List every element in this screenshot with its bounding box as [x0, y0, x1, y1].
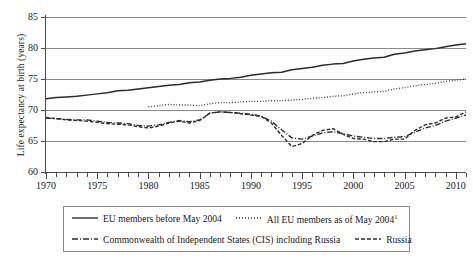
- legend-swatch-dashdot: [72, 234, 98, 244]
- x-tick-1988: [230, 173, 231, 177]
- x-tick-2003: [384, 173, 385, 177]
- x-tick-1986: [210, 173, 211, 177]
- x-tick-1980: [148, 173, 149, 179]
- x-tick-2004: [394, 173, 395, 177]
- x-tick-2009: [446, 173, 447, 177]
- x-tick-1978: [128, 173, 129, 177]
- x-tick-1975: [97, 173, 98, 179]
- legend-label-russia: Russia: [386, 234, 412, 245]
- y-tick-label-65: 65: [12, 136, 38, 146]
- x-tick-label-1980: 1980: [128, 180, 168, 191]
- x-tick-1995: [302, 173, 303, 179]
- x-tick-1989: [241, 173, 242, 177]
- x-tick-1983: [179, 173, 180, 177]
- x-tick-1974: [87, 173, 88, 177]
- x-tick-label-1975: 1975: [77, 180, 117, 191]
- x-tick-1970: [46, 173, 47, 179]
- x-tick-1999: [343, 173, 344, 177]
- legend-swatch-solid: [72, 213, 98, 223]
- x-tick-2008: [435, 173, 436, 177]
- legend-label-eu-before-2004: EU members before May 2004: [103, 213, 222, 224]
- x-tick-2010: [456, 173, 457, 179]
- legend-item-russia[interactable]: Russia: [347, 234, 412, 245]
- x-tick-1998: [333, 173, 334, 177]
- legend-swatch-dashed: [355, 234, 381, 244]
- x-tick-1993: [282, 173, 283, 177]
- x-tick-1987: [220, 173, 221, 177]
- x-tick-label-1970: 1970: [26, 180, 66, 191]
- x-tick-label-2000: 2000: [333, 180, 373, 191]
- x-tick-label-2005: 2005: [385, 180, 425, 191]
- legend-swatch-dotted: [236, 213, 262, 223]
- legend-label-all-eu-2004: All EU members as of May 20041: [267, 211, 398, 225]
- x-tick-1982: [169, 173, 170, 177]
- x-tick-1984: [189, 173, 190, 177]
- legend-item-eu-before-2004[interactable]: EU members before May 2004: [64, 213, 222, 224]
- y-tick-label-85: 85: [12, 12, 38, 22]
- x-tick-2001: [364, 173, 365, 177]
- x-tick-1997: [323, 173, 324, 177]
- series-line-3: [46, 112, 466, 147]
- x-tick-1994: [292, 173, 293, 177]
- x-tick-1990: [251, 173, 252, 179]
- x-tick-label-1985: 1985: [180, 180, 220, 191]
- x-tick-1979: [138, 173, 139, 177]
- chart-legend: EU members before May 2004 All EU member…: [63, 206, 410, 252]
- legend-item-cis[interactable]: Commonwealth of Independent States (CIS)…: [64, 234, 340, 245]
- y-tick-label-75: 75: [12, 74, 38, 84]
- legend-footnote-marker: 1: [394, 213, 397, 220]
- x-tick-1976: [107, 173, 108, 177]
- x-tick-2002: [374, 173, 375, 177]
- x-tick-2006: [415, 173, 416, 177]
- x-tick-2000: [353, 173, 354, 179]
- x-axis-line: [45, 172, 466, 173]
- legend-label-cis: Commonwealth of Independent States (CIS)…: [103, 234, 340, 245]
- legend-row-1: EU members before May 2004 All EU member…: [64, 207, 409, 229]
- x-tick-1977: [118, 173, 119, 177]
- x-tick-1971: [56, 173, 57, 177]
- legend-item-all-eu-2004[interactable]: All EU members as of May 20041: [228, 211, 398, 225]
- y-tick-label-60: 60: [12, 167, 38, 177]
- x-tick-2011: [466, 173, 467, 177]
- y-tick-label-70: 70: [12, 105, 38, 115]
- x-tick-2005: [405, 173, 406, 179]
- x-tick-label-1995: 1995: [282, 180, 322, 191]
- x-tick-label-1990: 1990: [231, 180, 271, 191]
- series-line-0: [46, 44, 466, 99]
- y-tick-label-80: 80: [12, 43, 38, 53]
- series-lines: [46, 17, 466, 172]
- x-tick-1991: [261, 173, 262, 177]
- chart-figure: Life expectancy at birth (years) 6065707…: [0, 0, 473, 259]
- x-tick-1973: [77, 173, 78, 177]
- x-tick-1996: [312, 173, 313, 177]
- y-axis-title: Life expectancy at birth (years): [16, 10, 30, 180]
- x-tick-1985: [200, 173, 201, 179]
- x-tick-label-2010: 2010: [436, 180, 473, 191]
- x-tick-2007: [425, 173, 426, 177]
- x-tick-1992: [271, 173, 272, 177]
- legend-row-2: Commonwealth of Independent States (CIS)…: [64, 228, 409, 250]
- x-tick-1972: [66, 173, 67, 177]
- series-line-1: [148, 79, 466, 107]
- x-tick-1981: [159, 173, 160, 177]
